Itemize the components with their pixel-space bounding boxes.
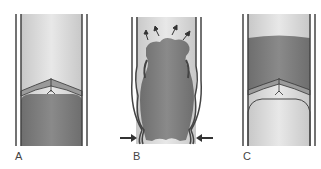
panel-a: [16, 14, 87, 146]
panel-b: [120, 17, 213, 144]
panel-label-a: A: [15, 150, 22, 162]
panel-c: [243, 14, 315, 146]
diagram-svg: [0, 0, 321, 169]
panel-label-c: C: [243, 150, 251, 162]
panel-label-b: B: [133, 150, 140, 162]
venous-valve-diagram: A B C: [0, 0, 321, 169]
